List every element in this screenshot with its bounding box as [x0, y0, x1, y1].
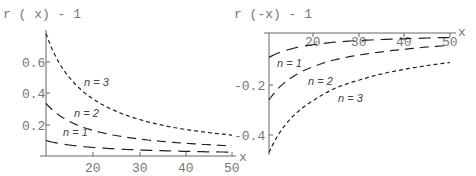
right-curve-n3: [269, 63, 450, 153]
left-curve-n1: [46, 141, 232, 153]
left-xtick: 20: [85, 161, 101, 176]
left-xtick: 40: [178, 161, 194, 176]
left-chart: r ( x) - 1 0.6 0.4 0.2 20 30 40 50 x n =…: [3, 7, 247, 176]
right-x-axis-label: x: [458, 25, 466, 40]
left-label-n2: n = 2: [74, 107, 99, 119]
left-ytick: 0.6: [22, 56, 45, 71]
right-xtick: 20: [305, 35, 321, 50]
right-xtick: 30: [351, 35, 367, 50]
left-label-n1: n = 1: [63, 126, 88, 138]
right-xtick: 40: [396, 35, 412, 50]
right-ytick: -0.2: [234, 79, 265, 94]
right-chart: r (-x) - 1 -0.2 -0.4 20 30 40 50 x n = 1…: [234, 7, 466, 155]
right-label-n3: n = 3: [338, 92, 364, 104]
left-curve-n3: [46, 34, 232, 136]
right-ytick: -0.4: [234, 129, 265, 144]
left-x-axis-label: x: [239, 150, 247, 165]
left-xtick: 30: [132, 161, 148, 176]
left-xtick: 50: [224, 161, 240, 176]
right-label-n1: n = 1: [277, 57, 302, 69]
left-chart-title: r ( x) - 1: [3, 7, 81, 22]
left-label-n3: n = 3: [84, 76, 110, 88]
right-chart-title: r (-x) - 1: [234, 7, 312, 22]
right-label-n2: n = 2: [308, 75, 333, 87]
left-ytick: 0.2: [22, 119, 45, 134]
figure: r ( x) - 1 0.6 0.4 0.2 20 30 40 50 x n =…: [0, 0, 476, 176]
left-ytick: 0.4: [22, 87, 46, 102]
